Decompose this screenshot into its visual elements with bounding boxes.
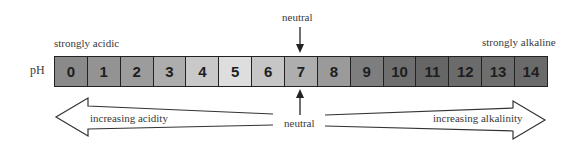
increasing-alkalinity-label: increasing alkalinity xyxy=(433,112,523,124)
down-arrow-icon xyxy=(296,27,304,53)
up-arrow-icon xyxy=(296,89,304,115)
increasing-acidity-label: increasing acidity xyxy=(90,112,168,124)
neutral-bottom-label: neutral xyxy=(284,117,315,129)
